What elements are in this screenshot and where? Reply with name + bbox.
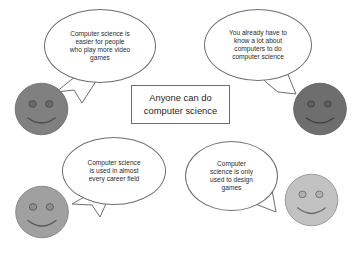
- speech-bubble-career-field: Computer science is used in almost every…: [62, 137, 166, 205]
- smiley-eye-right: [324, 101, 331, 107]
- smiley-eye-left: [299, 191, 306, 198]
- smiley-face-bottom-left: [14, 184, 70, 240]
- speech-bubble-video-games: Computer science is easier for people wh…: [44, 9, 156, 83]
- smiley-face-top-left: [12, 81, 71, 137]
- center-statement-text: Anyone can do computer science: [144, 92, 217, 116]
- center-statement-box: Anyone can do computer science: [131, 85, 230, 124]
- smiley-eye-left: [29, 101, 36, 108]
- speech-bubble-text: You already have to know a lot about com…: [221, 29, 295, 61]
- diagram-canvas: Computer science is easier for people wh…: [0, 0, 359, 255]
- speech-bubble-know-a-lot: You already have to know a lot about com…: [204, 9, 312, 81]
- speech-bubble-design-games: Computer science is only used to design …: [185, 141, 278, 211]
- speech-bubble-text: Computer science is used in almost every…: [79, 159, 148, 183]
- smiley-eye-right: [316, 191, 323, 198]
- speech-bubble-text: Computer science is easier for people wh…: [62, 30, 138, 62]
- smiley-face-top-right: [291, 81, 349, 137]
- smiley-eye-left: [308, 101, 315, 107]
- smiley-eye-left: [29, 204, 36, 211]
- smiley-face-bottom-right: [283, 172, 340, 228]
- smiley-eye-right: [46, 101, 53, 108]
- smiley-eye-right: [46, 204, 53, 211]
- speech-bubble-text: Computer science is only used to design …: [202, 160, 261, 192]
